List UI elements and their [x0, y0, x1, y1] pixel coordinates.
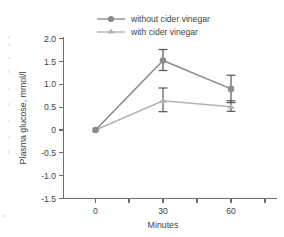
triangle-marker-icon [159, 98, 166, 103]
y-tick-label: 1.5 [44, 57, 56, 67]
circle-marker-icon [228, 86, 235, 93]
y-axis-title: Plasma glucose, mmol/l [18, 72, 28, 165]
x-axis-title: Minutes [148, 220, 179, 230]
series-without-cider-vinegar [92, 50, 235, 134]
scan-edge-artifacts [2, 36, 10, 217]
x-tick-label: 0 [93, 206, 98, 216]
circle-marker-icon [92, 127, 99, 134]
y-tick-label: 0.5 [44, 102, 56, 112]
y-axis-tick-labels: 2.0 1.5 1.0 0.5 0 -0.5 -1.0 -1.5 [41, 34, 56, 204]
legend-item-with-cider-vinegar[interactable]: with cider vinegar [97, 27, 198, 37]
x-axis-ticks [96, 199, 266, 203]
y-tick-label: 0 [51, 125, 56, 135]
y-tick-label: 2.0 [44, 34, 56, 44]
y-axis-ticks [59, 39, 64, 199]
x-tick-label: 30 [158, 206, 168, 216]
y-tick-label: -1.5 [41, 194, 56, 204]
x-axis: 0 30 60 Minutes [64, 199, 278, 230]
chart-legend: without cider vinegar with cider vinegar [97, 14, 210, 37]
y-tick-label: -1.0 [41, 171, 56, 181]
y-tick-label: -0.5 [41, 148, 56, 158]
x-tick-label: 60 [226, 206, 236, 216]
plasma-glucose-line-chart: without cider vinegar with cider vinegar [0, 0, 284, 237]
series-with-cider-vinegar [92, 88, 236, 132]
circle-marker-icon [108, 16, 114, 22]
triangle-marker-icon [108, 29, 115, 34]
chart-figure: without cider vinegar with cider vinegar [0, 0, 284, 237]
y-tick-label: 1.0 [44, 79, 56, 89]
x-axis-tick-labels: 0 30 60 [93, 206, 236, 216]
y-axis: 2.0 1.5 1.0 0.5 0 -0.5 -1.0 -1.5 Plasma … [18, 34, 64, 204]
legend-item-without-cider-vinegar[interactable]: without cider vinegar [97, 14, 210, 24]
legend-label-with: with cider vinegar [130, 27, 198, 37]
legend-label-without: without cider vinegar [130, 14, 210, 24]
circle-marker-icon [160, 57, 167, 64]
